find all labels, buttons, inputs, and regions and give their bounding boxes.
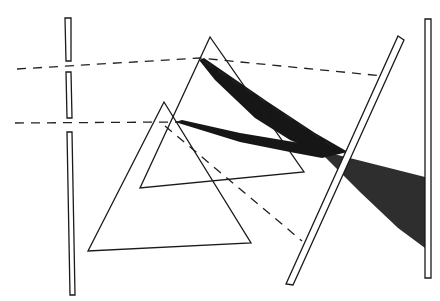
optics-diagram xyxy=(0,0,440,301)
spreading-beam xyxy=(318,150,425,248)
slit-barrier xyxy=(65,18,75,295)
lower-incident-ray xyxy=(15,122,180,123)
slit-barrier-bottom xyxy=(67,132,75,295)
angled-plate xyxy=(286,36,404,285)
projection-screen xyxy=(425,19,431,278)
slit-barrier-top xyxy=(65,18,71,61)
diagram-canvas xyxy=(0,0,440,301)
slit-barrier-middle xyxy=(66,72,72,118)
